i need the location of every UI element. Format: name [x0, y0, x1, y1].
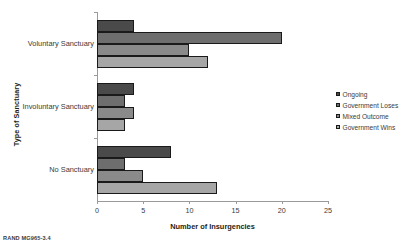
bar: [97, 44, 189, 56]
bar: [97, 107, 134, 119]
figure-source-note: RAND MG965-3.4: [3, 235, 51, 241]
x-tick-label: 15: [232, 206, 240, 215]
legend-label: Government Wins: [343, 124, 396, 131]
bar: [97, 182, 217, 194]
category-axis-labels: Voluntary SanctuaryInvoluntary Sanctuary…: [0, 0, 94, 247]
legend-item: Government Loses: [336, 100, 398, 110]
x-axis-title: Number of Insurgencies: [97, 222, 328, 231]
legend-swatch-icon: [336, 114, 340, 118]
bar: [97, 83, 134, 95]
legend-item: Ongoing: [336, 89, 398, 99]
x-tick-mark: [143, 201, 144, 204]
bar: [97, 158, 125, 170]
category-label: Voluntary Sanctuary: [2, 39, 94, 48]
legend-label: Mixed Outcome: [343, 113, 389, 120]
x-axis-line: [97, 201, 328, 202]
legend-label: Ongoing: [343, 91, 368, 98]
legend-swatch-icon: [336, 103, 340, 107]
legend-swatch-icon: [336, 125, 340, 129]
y-tick-mark: [94, 12, 97, 13]
bar: [97, 56, 208, 68]
chart-figure: Type of Sanctuary Voluntary SanctuaryInv…: [0, 0, 417, 247]
x-tick-label: 10: [185, 206, 193, 215]
x-tick-mark: [97, 201, 98, 204]
x-tick-mark: [236, 201, 237, 204]
bar: [97, 95, 125, 107]
x-tick-label: 0: [95, 206, 99, 215]
legend-swatch-icon: [336, 92, 340, 96]
legend-item: Government Wins: [336, 122, 398, 132]
x-tick-mark: [282, 201, 283, 204]
x-tick-mark: [328, 201, 329, 204]
bar: [97, 32, 282, 44]
x-tick-mark: [189, 201, 190, 204]
bar: [97, 170, 143, 182]
category-label: No Sanctuary: [2, 165, 94, 174]
y-tick-mark: [94, 75, 97, 76]
x-tick-label: 5: [141, 206, 145, 215]
x-tick-label: 25: [324, 206, 332, 215]
legend-label: Government Loses: [343, 102, 399, 109]
plot-area: 0510152025: [97, 12, 328, 201]
bar: [97, 20, 134, 32]
chart-legend: OngoingGovernment LosesMixed OutcomeGove…: [336, 89, 398, 133]
bar: [97, 119, 125, 131]
bar: [97, 146, 171, 158]
category-label: Involuntary Sanctuary: [2, 102, 94, 111]
y-tick-mark: [94, 138, 97, 139]
legend-item: Mixed Outcome: [336, 111, 398, 121]
x-tick-label: 20: [278, 206, 286, 215]
